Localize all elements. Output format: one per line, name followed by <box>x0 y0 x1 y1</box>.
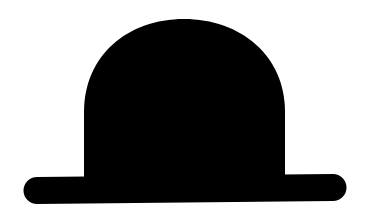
hat-brim <box>24 174 347 204</box>
bowler-hat-icon <box>0 0 372 212</box>
hat-illustration: bowler hat silhouette <box>0 0 372 212</box>
